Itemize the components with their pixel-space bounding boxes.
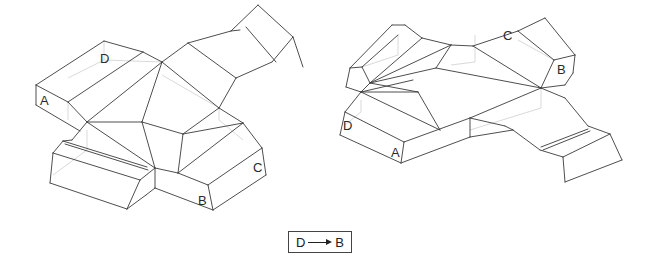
right-net-figure: CBDA: [340, 18, 622, 182]
fold-edge: [178, 134, 183, 173]
fold-edge: [505, 126, 513, 130]
vertex-labels: DACB: [40, 51, 262, 208]
fold-edge: [188, 43, 236, 78]
fold-edge: [422, 38, 451, 45]
hidden-edge: [104, 60, 162, 62]
fold-edge: [258, 5, 293, 37]
fold-edge: [565, 73, 573, 85]
fold-edge: [36, 41, 104, 85]
vertex-label-c: C: [503, 28, 512, 43]
caption-box: D B: [288, 231, 352, 253]
fold-edge: [104, 41, 143, 52]
vertex-label-d: D: [100, 51, 109, 66]
fold-edge: [63, 140, 72, 141]
fold-edge: [36, 105, 80, 131]
fold-edge: [588, 126, 610, 134]
visible-edges: [36, 5, 303, 210]
hidden-edge: [68, 60, 104, 78]
fold-edge: [87, 62, 162, 122]
fold-edge: [362, 35, 398, 67]
fold-edge: [53, 141, 63, 153]
vertex-label-d: D: [343, 118, 352, 133]
fold-edge: [361, 80, 413, 92]
fold-edge: [208, 185, 213, 210]
fold-edge: [554, 55, 575, 60]
fold-edge: [162, 62, 219, 108]
visible-edges: [340, 18, 622, 182]
vertex-label-b: B: [557, 62, 566, 77]
fold-edge: [518, 18, 545, 31]
caption-to-label: B: [335, 235, 344, 250]
fold-edge: [231, 5, 258, 31]
fold-edge: [541, 60, 554, 88]
fold-edge: [361, 92, 440, 130]
fold-edge: [162, 43, 188, 62]
fold-edge: [470, 130, 513, 137]
diagram-canvas: DACB CBDA: [0, 0, 653, 261]
fold-edge: [370, 38, 422, 83]
fold-edge: [563, 157, 565, 182]
fold-edge: [293, 37, 303, 67]
fold-edge: [370, 68, 436, 83]
fold-edge: [146, 188, 155, 195]
fold-edge: [565, 98, 588, 126]
hidden-edge: [518, 40, 554, 60]
fold-edge: [401, 137, 470, 163]
hidden-edge: [162, 75, 219, 108]
fold-edge: [246, 27, 276, 62]
vertex-label-b: B: [198, 193, 207, 208]
fold-edge: [243, 123, 262, 148]
fold-edge: [541, 129, 588, 147]
fold-edge: [346, 87, 361, 92]
vertex-label-c: C: [253, 160, 262, 175]
fold-edge: [142, 122, 155, 168]
fold-edge: [518, 31, 554, 60]
fold-edge: [72, 122, 87, 140]
fold-edge: [541, 85, 565, 88]
fold-edge: [563, 134, 610, 157]
fold-edge: [183, 108, 219, 134]
hidden-lines: [345, 35, 554, 130]
fold-edge: [143, 52, 162, 62]
fold-edge: [178, 173, 208, 185]
vertex-label-a: A: [40, 93, 49, 108]
caption-from-label: D: [296, 235, 305, 250]
fold-edge: [513, 130, 540, 150]
fold-edge: [345, 92, 361, 112]
fold-edge: [350, 67, 362, 68]
fold-edge: [155, 168, 178, 173]
fold-edge: [142, 62, 162, 122]
fold-edge: [610, 134, 622, 160]
fold-edge: [573, 55, 575, 73]
fold-edge: [346, 68, 350, 87]
hidden-lines: [53, 41, 243, 175]
hidden-edge: [451, 62, 475, 65]
fold-edge: [470, 88, 541, 118]
left-net-figure: DACB: [36, 5, 303, 210]
fold-edge: [213, 175, 266, 210]
vertex-label-a: A: [391, 145, 400, 160]
fold-edge: [545, 18, 575, 55]
fold-edge: [262, 148, 266, 175]
fold-edge: [345, 112, 404, 142]
hidden-edge: [362, 55, 398, 67]
fold-edge: [219, 108, 243, 123]
right-arrow-icon: [308, 237, 332, 247]
fold-edge: [405, 25, 422, 38]
fold-edge: [404, 118, 470, 142]
fold-edge: [362, 67, 370, 83]
fold-edge: [451, 45, 473, 46]
fold-edge: [272, 37, 293, 62]
fold-edge: [142, 122, 183, 134]
fold-edge: [53, 153, 140, 180]
hidden-edge: [53, 150, 87, 175]
fold-edge: [50, 153, 53, 183]
fold-edge: [401, 142, 404, 163]
fold-edge: [541, 88, 565, 98]
fold-edge: [50, 183, 127, 209]
fold-edge: [188, 31, 231, 43]
fold-edge: [219, 78, 236, 108]
fold-edge: [68, 102, 87, 122]
fold-edge: [540, 150, 563, 157]
fold-edge: [236, 62, 272, 78]
